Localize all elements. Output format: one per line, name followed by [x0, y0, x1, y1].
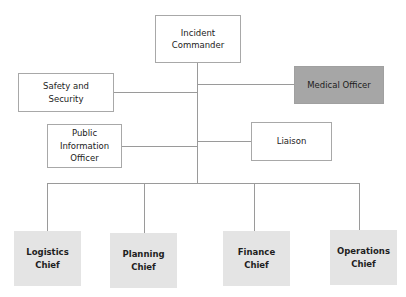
medical-officer-label: Medical Officer [307, 79, 371, 92]
incident-commander-label: Incident Commander [172, 27, 224, 52]
liaison-label: Liaison [277, 135, 307, 148]
chiefs-bus-line [47, 183, 360, 184]
operations-chief-box: Operations Chief [330, 230, 397, 285]
finance-drop-line [254, 183, 255, 231]
pio-connector [121, 146, 197, 147]
operations-drop-line [359, 183, 360, 230]
planning-chief-label: Planning Chief [122, 248, 164, 273]
safety-connector [113, 92, 197, 93]
incident-commander-box: Incident Commander [155, 15, 241, 63]
logistics-chief-box: Logistics Chief [14, 231, 81, 286]
liaison-connector [197, 141, 251, 142]
logistics-chief-label: Logistics Chief [26, 246, 68, 271]
safety-security-label: Safety and Security [43, 80, 89, 105]
planning-drop-line [144, 183, 145, 233]
public-information-officer-label: Public Information Officer [60, 127, 109, 165]
safety-security-box: Safety and Security [18, 73, 114, 112]
public-information-officer-box: Public Information Officer [47, 124, 122, 168]
medical-officer-box: Medical Officer [294, 66, 384, 104]
operations-chief-label: Operations Chief [337, 245, 390, 270]
planning-chief-box: Planning Chief [110, 233, 177, 288]
medical-connector [197, 84, 294, 85]
logistics-drop-line [47, 183, 48, 231]
finance-chief-label: Finance Chief [238, 246, 275, 271]
finance-chief-box: Finance Chief [223, 231, 290, 286]
liaison-box: Liaison [251, 122, 332, 161]
trunk-line [197, 62, 198, 183]
